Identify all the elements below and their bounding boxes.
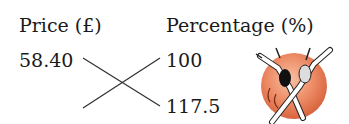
dancers-icon	[248, 38, 336, 124]
